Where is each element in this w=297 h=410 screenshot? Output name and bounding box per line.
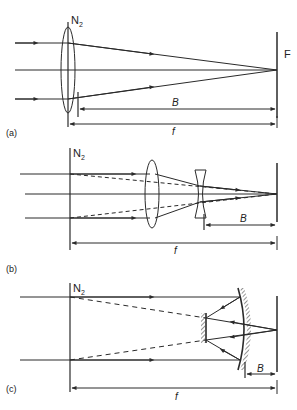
panel-label-b: (b) bbox=[6, 264, 17, 274]
panel-b bbox=[20, 148, 277, 250]
panel-a bbox=[15, 22, 277, 128]
focal-length-label-a: f bbox=[172, 126, 176, 137]
focal-plane-label: F bbox=[284, 48, 291, 60]
back-focus-label-c: B bbox=[257, 363, 264, 374]
focal-length-label-b: f bbox=[174, 245, 178, 256]
lens-label-b: N2 bbox=[73, 147, 85, 161]
panel-label-c: (c) bbox=[6, 384, 17, 394]
focal-length-label-c: f bbox=[175, 391, 179, 402]
panel-c bbox=[20, 283, 277, 394]
back-focus-label-a: B bbox=[172, 97, 179, 108]
lens-label-c: N2 bbox=[73, 282, 85, 296]
panel-label-a: (a) bbox=[6, 128, 17, 138]
optics-diagram: N2 F B f (a) N2 B f (b) N2 B f (c) bbox=[0, 0, 297, 410]
primary-mirror bbox=[238, 288, 244, 370]
back-focus-label-b: B bbox=[240, 213, 247, 224]
lens-label-a: N2 bbox=[71, 14, 83, 28]
